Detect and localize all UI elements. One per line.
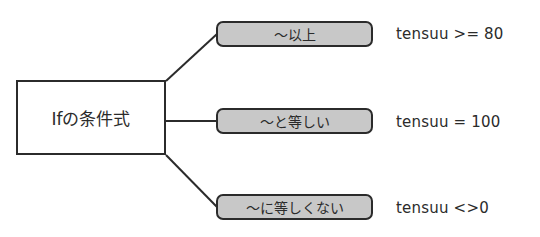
branch-example-greater-equal: tensuu >= 80 (396, 25, 504, 43)
connector-bottom (166, 155, 217, 207)
branch-greater-equal: ～以上 (216, 21, 373, 47)
branch-not-equal: ～に等しくない (216, 194, 373, 220)
branch-label: ～に等しくない (246, 197, 344, 217)
condition-diagram: Ifの条件式 ～以上 tensuu >= 80 ～と等しい tensuu = 1… (0, 0, 540, 237)
root-condition-label: Ifの条件式 (52, 105, 131, 130)
branch-example-equal: tensuu = 100 (396, 113, 501, 131)
branch-label: ～と等しい (260, 111, 330, 131)
connector-top (166, 34, 217, 81)
branch-example-not-equal: tensuu <>0 (396, 199, 489, 217)
root-condition-box: Ifの条件式 (16, 80, 166, 155)
branch-label: ～以上 (274, 24, 316, 44)
branch-equal: ～と等しい (216, 108, 373, 134)
